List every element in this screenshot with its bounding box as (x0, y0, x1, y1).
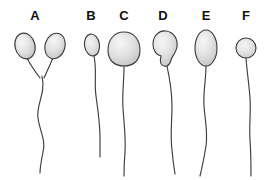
specimen-e-label: E (202, 8, 211, 23)
specimen-d-label: D (158, 8, 167, 23)
specimen-c-tail (123, 66, 126, 176)
specimen-a-head-left (12, 31, 38, 61)
specimen-a-neck-right (44, 58, 53, 78)
specimen-b: B (83, 8, 101, 157)
specimen-c-label: C (119, 8, 129, 23)
specimen-b-label: B (86, 8, 95, 23)
specimen-f: F (236, 8, 256, 176)
specimen-d-head (153, 31, 177, 66)
specimen-b-head (83, 33, 101, 57)
specimen-a-tail (38, 76, 44, 173)
specimen-f-label: F (242, 8, 250, 23)
specimen-f-tail (246, 58, 251, 176)
sperm-morphology-figure: A B C D E (0, 0, 272, 180)
specimen-b-tail (94, 56, 100, 157)
specimen-c: C (108, 8, 140, 176)
specimen-a-label: A (30, 8, 40, 23)
figure-canvas: A B C D E (0, 0, 272, 180)
specimen-d-tail (167, 66, 175, 174)
specimen-f-head (236, 38, 256, 58)
specimen-a-head-right (42, 31, 68, 62)
specimen-e-tail (200, 66, 207, 176)
specimen-e: E (195, 8, 217, 176)
specimen-a: A (12, 8, 68, 173)
specimen-e-head (195, 30, 217, 66)
specimen-d: D (153, 8, 177, 174)
specimen-c-head (108, 32, 140, 66)
specimen-a-neck-left (27, 58, 40, 78)
